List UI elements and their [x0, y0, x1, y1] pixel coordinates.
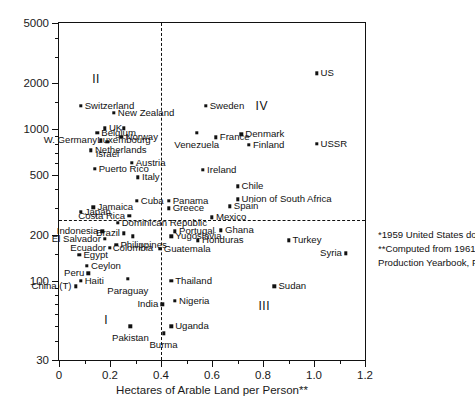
- data-point-guatemala: [158, 247, 161, 250]
- y-minor-tick: [55, 57, 59, 58]
- data-point-label-china-t: China (T): [32, 281, 72, 291]
- data-point-label-ghana: Ghana: [225, 225, 254, 235]
- y-tick-label-5000: 5000: [23, 17, 49, 29]
- y-tick-label-500: 500: [30, 169, 49, 181]
- data-point-label-ussr: USSR: [321, 139, 348, 149]
- y-minor-tick: [55, 102, 59, 103]
- data-point-india: [161, 302, 164, 305]
- data-point-label-burma: Burma: [149, 340, 177, 350]
- reference-line-vertical: [161, 23, 162, 360]
- y-tick-1000: [52, 129, 59, 130]
- data-point-panama: [167, 199, 170, 202]
- data-point-label-norway: Norway: [125, 132, 158, 142]
- data-point-label-chile: Chile: [242, 181, 264, 191]
- data-point-us: [315, 72, 318, 75]
- data-point-label-haiti: Haiti: [85, 276, 104, 286]
- data-point-china-t: [74, 284, 77, 287]
- quadrant-label-III: III: [259, 299, 271, 313]
- data-point-uganda: [169, 325, 172, 328]
- x-tick-label-0.4: 0.4: [153, 369, 169, 381]
- data-point-label-turkey: Turkey: [293, 235, 322, 245]
- x-tick-label-0.2: 0.2: [102, 369, 118, 381]
- data-point-israel: [106, 140, 109, 143]
- y-minor-tick: [55, 163, 59, 164]
- data-point-thailand: [169, 279, 172, 282]
- data-point-label-pakistan: Pakistan: [112, 334, 149, 344]
- plot-area: 5000200010005002001003000.20.40.60.81.01…: [58, 22, 366, 361]
- data-point-spain: [228, 204, 231, 207]
- data-point-label-france: France: [220, 133, 250, 143]
- data-point-chile: [236, 184, 239, 187]
- data-point-label-ceylon: Ceylon: [91, 261, 121, 271]
- data-point-label-mexico: Mexico: [216, 212, 246, 222]
- data-point-label-india: India: [137, 299, 158, 309]
- data-point-france: [214, 136, 217, 139]
- data-point-colombia: [131, 235, 134, 238]
- y-tick-500: [52, 175, 59, 176]
- data-point-yugoslavia: [169, 235, 172, 238]
- data-point-ghana: [219, 229, 222, 232]
- x-minor-tick: [340, 360, 341, 364]
- x-minor-tick: [238, 360, 239, 364]
- data-point-turkey: [287, 238, 290, 241]
- y-minor-tick: [55, 295, 59, 296]
- data-point-label-egypt: Egypt: [83, 250, 108, 260]
- data-point-cuba: [135, 199, 138, 202]
- data-point-el-salvador: [103, 237, 106, 240]
- y-minor-tick: [55, 314, 59, 315]
- footnote-currency: *1959 United States dollars: [378, 228, 474, 242]
- y-tick-label-200: 200: [30, 229, 49, 241]
- x-tick-label-0: 0: [56, 369, 62, 381]
- data-point-label-greece: Greece: [173, 204, 204, 214]
- data-point-paraguay: [126, 277, 129, 280]
- data-point-label-netherlands: Netherlands: [95, 145, 147, 155]
- quadrant-label-IV: IV: [256, 99, 268, 113]
- data-point-label-nigeria: Nigeria: [179, 296, 209, 306]
- x-tick-0: [59, 360, 60, 367]
- x-tick-label-0.8: 0.8: [255, 369, 271, 381]
- data-point-switzerland: [79, 104, 82, 107]
- data-point-label-spain: Spain: [234, 201, 259, 211]
- quadrant-label-II: II: [92, 72, 100, 86]
- data-point-ceylon: [85, 264, 88, 267]
- footnote-source-2: Production Yearbook, FAO: [378, 256, 474, 270]
- data-point-label-cuba: Cuba: [141, 196, 164, 206]
- y-tick-5000: [52, 23, 59, 24]
- data-point-label-sweden: Sweden: [210, 101, 245, 111]
- y-tick-2000: [52, 83, 59, 84]
- x-tick-0.8: [263, 360, 264, 367]
- y-tick-label-2000: 2000: [23, 77, 49, 89]
- data-point-dominican-republic: [116, 221, 119, 224]
- data-point-ecuador: [108, 246, 111, 249]
- data-point-label-paraguay: Paraguay: [107, 286, 148, 296]
- data-point-mexico: [210, 216, 213, 219]
- y-tick-30: [52, 360, 59, 361]
- data-point-label-syria: Syria: [320, 248, 342, 258]
- data-point-label-costa-rica: Costa Rica: [78, 211, 125, 221]
- data-point-label-denmark: Denmark: [245, 129, 284, 139]
- x-tick-label-0.6: 0.6: [204, 369, 220, 381]
- data-point-label-sudan: Sudan: [278, 281, 306, 291]
- data-point-sweden: [204, 104, 207, 107]
- footnote-source-1: **Computed from 1961: [378, 242, 474, 256]
- data-point-syria: [344, 251, 347, 254]
- data-point-label-us: US: [321, 69, 334, 79]
- data-point-nigeria: [173, 299, 176, 302]
- data-point-label-peru: Peru: [64, 268, 84, 278]
- x-tick-0.6: [212, 360, 213, 367]
- data-point-italy: [136, 176, 139, 179]
- data-point-norway: [120, 135, 123, 138]
- x-minor-tick: [187, 360, 188, 364]
- data-point-pakistan: [129, 325, 132, 328]
- x-tick-0.4: [161, 360, 162, 367]
- data-point-puerto-rico: [93, 167, 96, 170]
- data-point-sudan: [273, 284, 276, 287]
- y-minor-tick: [55, 254, 59, 255]
- data-point-label-w-germany: W. Germany: [44, 135, 97, 145]
- data-point-egypt: [78, 253, 81, 256]
- data-point-netherlands: [89, 148, 92, 151]
- y-tick-label-30: 30: [36, 354, 49, 366]
- y-minor-tick: [55, 208, 59, 209]
- data-point-greece: [167, 207, 170, 210]
- data-point-philippines: [115, 243, 118, 246]
